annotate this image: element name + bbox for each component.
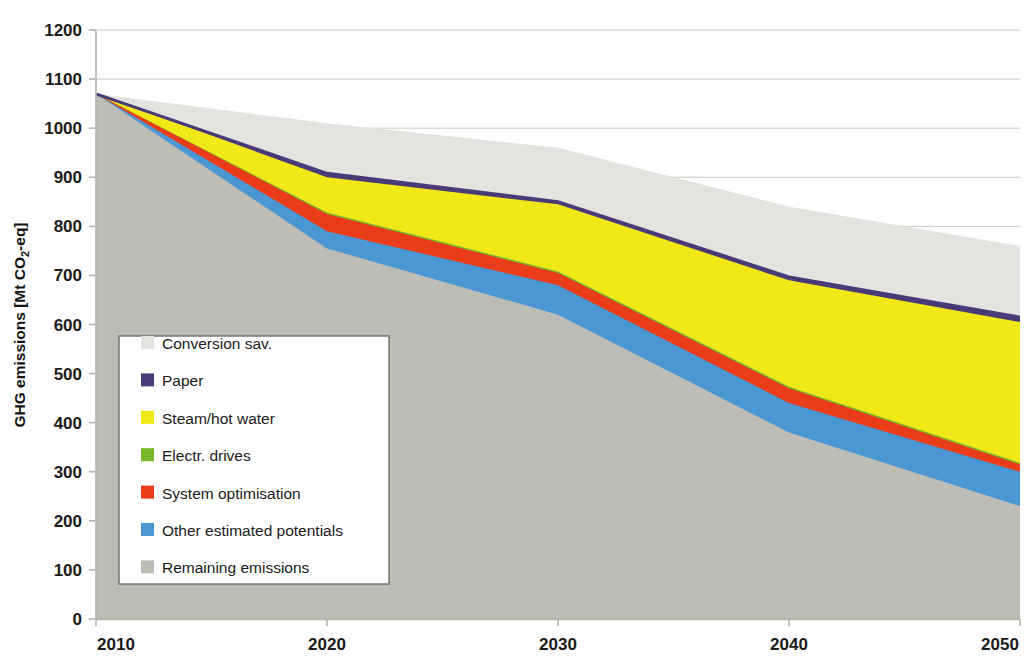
legend-label: Remaining emissions — [162, 559, 310, 576]
legend-label: Paper — [162, 372, 203, 389]
legend-swatch — [141, 411, 154, 424]
x-axis-ticks: 20102020203020402050 — [96, 619, 1020, 654]
legend-label: System optimisation — [162, 485, 301, 502]
y-tick-label: 400 — [54, 414, 82, 433]
x-tick-label: 2020 — [308, 635, 346, 654]
legend-box — [119, 336, 389, 584]
x-tick-label: 2050 — [981, 635, 1019, 654]
legend-swatch — [141, 373, 154, 386]
legend-label: Other estimated potentials — [162, 522, 343, 539]
y-tick-label: 900 — [54, 168, 82, 187]
legend-label: Electr. drives — [162, 447, 251, 464]
ghg-emissions-area-chart: 0100200300400500600700800900100011001200… — [0, 0, 1026, 671]
y-tick-label: 0 — [73, 610, 82, 629]
y-tick-label: 300 — [54, 463, 82, 482]
svg-text:GHG emissions [Mt CO2-eq]: GHG emissions [Mt CO2-eq] — [11, 222, 31, 427]
y-tick-label: 500 — [54, 365, 82, 384]
y-tick-label: 800 — [54, 217, 82, 236]
y-tick-label: 1000 — [44, 119, 82, 138]
x-tick-label: 2040 — [770, 635, 808, 654]
legend-swatch — [141, 560, 154, 573]
legend-swatch — [141, 486, 154, 499]
y-tick-label: 1200 — [44, 21, 82, 40]
y-tick-label: 200 — [54, 512, 82, 531]
y-axis-title-post: -eq] — [11, 222, 28, 250]
y-tick-label: 700 — [54, 266, 82, 285]
y-axis-title-pre: GHG emissions [Mt CO — [11, 257, 28, 428]
x-tick-label: 2010 — [97, 635, 135, 654]
x-tick-label: 2030 — [539, 635, 577, 654]
legend-label: Steam/hot water — [162, 410, 275, 427]
y-tick-label: 1100 — [45, 70, 82, 89]
y-tick-label: 100 — [54, 561, 82, 580]
y-tick-label: 600 — [54, 316, 82, 335]
y-axis-title: GHG emissions [Mt CO2-eq] — [11, 222, 31, 427]
legend-swatch — [141, 336, 154, 349]
legend-swatch — [141, 523, 154, 536]
legend-label: Conversion sav. — [162, 335, 272, 352]
chart-canvas: 0100200300400500600700800900100011001200… — [0, 0, 1026, 671]
legend-swatch — [141, 448, 154, 461]
y-axis-ticks: 0100200300400500600700800900100011001200 — [44, 21, 96, 629]
legend: Conversion sav.PaperSteam/hot waterElect… — [119, 335, 389, 584]
